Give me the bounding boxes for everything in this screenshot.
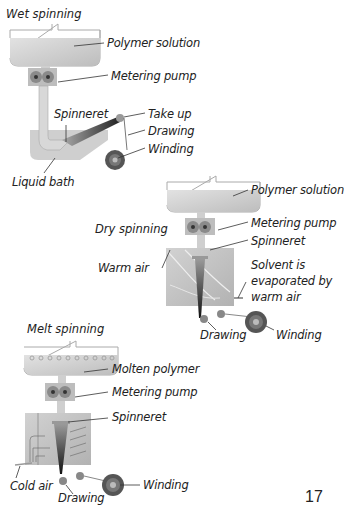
label-solvent-line3: warm air (251, 290, 300, 304)
winding-roll (245, 311, 267, 333)
melt-spinning-title: Melt spinning (27, 322, 104, 336)
label-spinneret: Spinneret (251, 234, 305, 248)
label-winding: Winding (148, 142, 194, 156)
drawing-roller (76, 472, 84, 480)
take-up-roller (116, 114, 124, 122)
metering-pump (185, 218, 215, 235)
label-winding: Winding (143, 478, 189, 492)
label-solvent-line2: evaporated by (251, 274, 332, 288)
drawing-roller (217, 310, 225, 318)
metering-pump (45, 383, 75, 401)
label-polymer-solution: Polymer solution (107, 36, 200, 50)
label-metering-pump: Metering pump (251, 216, 336, 230)
label-molten-polymer: Molten polymer (112, 362, 199, 376)
metering-pump (28, 68, 57, 86)
drawing-roller (200, 315, 208, 323)
label-warm-air: Warm air (98, 261, 149, 275)
label-take-up: Take up (148, 107, 191, 121)
polymer-tank (167, 176, 260, 212)
page-number: 17 (305, 488, 323, 505)
label-liquid-bath: Liquid bath (12, 175, 74, 189)
drawing-roller (59, 477, 67, 485)
label-metering-pump: Metering pump (112, 385, 197, 399)
label-drawing: Drawing (148, 124, 194, 138)
label-polymer-solution: Polymer solution (251, 183, 344, 197)
label-winding: Winding (276, 328, 322, 342)
dry-spinning-diagram (162, 176, 274, 333)
label-spinneret: Spinneret (54, 107, 108, 121)
wet-spinning-title: Wet spinning (6, 7, 81, 21)
label-cold-air: Cold air (10, 479, 53, 493)
label-drawing: Drawing (200, 328, 246, 342)
label-solvent-line1: Solvent is (251, 258, 305, 272)
label-spinneret: Spinneret (112, 410, 166, 424)
label-metering-pump: Metering pump (111, 69, 196, 83)
label-drawing: Drawing (58, 491, 104, 505)
winding-roll (105, 150, 125, 170)
dry-spinning-title: Dry spinning (95, 222, 168, 236)
